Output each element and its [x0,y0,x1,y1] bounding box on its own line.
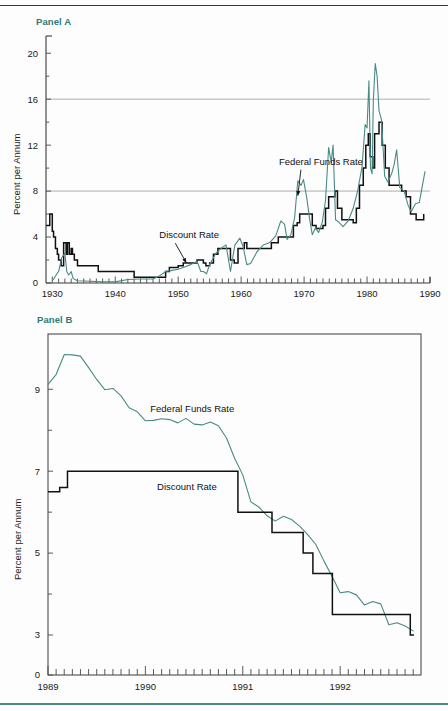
panel-b-plot-frame [48,334,421,675]
panel-b-xtick-label: 1991 [232,681,253,692]
panel-b-annotation-label-1: Discount Rate [157,481,217,492]
panel-b-xtick-label: 1990 [135,681,156,692]
panel-b-xtick-label: 1992 [330,681,351,692]
panel-b-ytick-label: 5 [35,547,40,558]
panel-b-series-federal-funds-rate [48,354,413,630]
panel-b-ytick-label: 7 [35,466,40,477]
panel-b-annotation-label-0: Federal Funds Rate [150,403,234,414]
panel-b-series-discount-rate [48,471,413,635]
panel-b-chart: 035791989199019911992Federal Funds RateD… [0,0,448,711]
figure-root: Panel A Panel B Percent per Annum Percen… [0,0,448,711]
panel-b-ytick-label: 3 [35,629,40,640]
panel-b-ytick-label: 9 [35,384,40,395]
panel-b-xtick-label: 1989 [37,681,58,692]
panel-b-ytick-label: 0 [35,669,40,680]
